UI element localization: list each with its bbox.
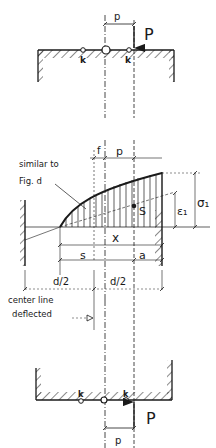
s-label: s <box>80 249 86 262</box>
dim-f-label: f <box>97 145 101 156</box>
dim-p-label: p <box>116 145 123 158</box>
note-fig-d: Fig. d <box>19 176 42 186</box>
bottom-point-k-left <box>79 399 84 404</box>
note-similar-to: similar to <box>19 159 59 169</box>
bottom-load-label: P <box>146 409 156 428</box>
top-k-left-label: k <box>80 55 87 65</box>
top-point-k-right <box>127 48 132 53</box>
x-label: x <box>112 231 119 245</box>
epsilon-label: ε₁ <box>177 205 187 218</box>
deflection-arrow-icon <box>87 315 93 321</box>
middle-view: f p similar to Fig. d <box>8 140 210 448</box>
bottom-frame <box>36 360 172 400</box>
bottom-k-right-label: k <box>123 390 129 399</box>
a-label: a <box>139 249 146 262</box>
top-k-right-label: k <box>125 55 132 65</box>
centroid-point-S <box>132 204 137 209</box>
half-left-label: d/2 <box>53 276 69 287</box>
bottom-center-hinge <box>101 397 107 403</box>
half-right-label: d/2 <box>110 276 126 287</box>
diagram-canvas: p P k k f p similar to Fig. d <box>0 0 216 448</box>
top-p-label: p <box>114 11 120 22</box>
curve-hatching <box>66 174 156 227</box>
bottom-p-label: p <box>115 435 121 446</box>
centroid-label: S <box>139 205 146 218</box>
center-note-2: deflected <box>12 309 52 319</box>
bottom-view: k k P p <box>36 360 172 446</box>
top-view: p P k k <box>38 11 174 118</box>
bottom-k-left-label: k <box>78 390 84 399</box>
center-note-1: center line <box>8 295 53 305</box>
top-point-k-left <box>81 48 86 53</box>
top-center-hinge <box>102 46 110 54</box>
top-load-label: P <box>144 25 154 44</box>
top-frame <box>38 50 174 82</box>
sigma-label: σ₁ <box>197 196 210 210</box>
